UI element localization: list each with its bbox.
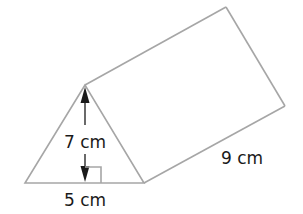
triangular-prism-diagram: 7 cm 5 cm 9 cm bbox=[0, 0, 303, 214]
prism-top-edge bbox=[85, 7, 226, 85]
arrow-down-icon bbox=[81, 166, 90, 182]
prism-bottom-edge bbox=[144, 106, 285, 183]
length-label: 9 cm bbox=[221, 148, 263, 168]
prism-back-edge bbox=[226, 7, 285, 106]
base-label: 5 cm bbox=[64, 190, 106, 210]
height-label: 7 cm bbox=[64, 132, 106, 152]
